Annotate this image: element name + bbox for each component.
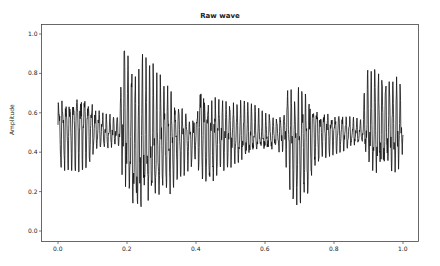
x-tick-label: 0.6 xyxy=(260,245,270,252)
x-tick-label: 0.0 xyxy=(53,245,63,252)
raw-wave-chart: Raw wave Amplitude 0.00.20.40.60.81.00.0… xyxy=(0,0,440,266)
y-tick-label: 0.0 xyxy=(28,227,38,234)
y-tick-label: 0.8 xyxy=(28,69,38,76)
y-tick-label: 0.4 xyxy=(28,148,38,155)
plot-area xyxy=(0,0,440,266)
x-tick-label: 0.2 xyxy=(122,245,132,252)
waveform-line xyxy=(58,51,403,207)
x-tick-label: 0.4 xyxy=(191,245,201,252)
x-tick-label: 1.0 xyxy=(398,245,408,252)
y-tick-label: 1.0 xyxy=(28,30,38,37)
x-tick-label: 0.8 xyxy=(329,245,339,252)
y-tick-label: 0.2 xyxy=(28,188,38,195)
y-tick-label: 0.6 xyxy=(28,109,38,116)
